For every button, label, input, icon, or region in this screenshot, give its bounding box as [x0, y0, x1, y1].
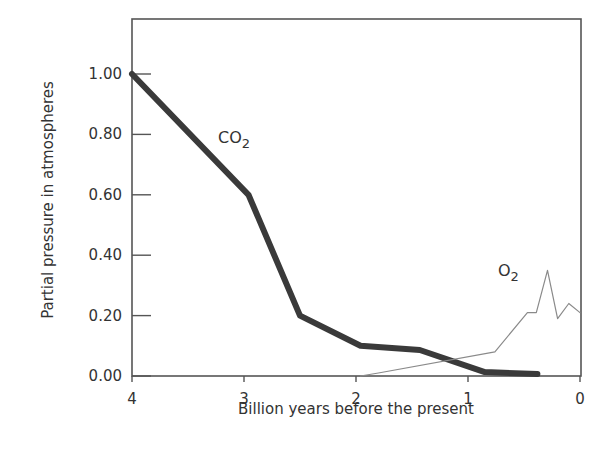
y-axis-ticks: 0.000.200.400.600.801.00 — [89, 65, 151, 385]
x-axis-title: Billion years before the present — [238, 400, 474, 418]
y-axis-title: Partial pressure in atmospheres — [39, 81, 57, 319]
y-tick-label: 1.00 — [89, 65, 122, 83]
y-tick-label: 0.60 — [89, 186, 122, 204]
y-tick-label: 0.40 — [89, 246, 122, 264]
co2-line — [132, 74, 537, 374]
plot-frame — [132, 19, 581, 376]
series-lines — [132, 74, 580, 376]
y-tick-label: 0.20 — [89, 307, 122, 325]
o2-label: O2 — [498, 261, 519, 284]
co2-label: CO2 — [218, 128, 250, 151]
plot-border — [132, 19, 581, 376]
chart: 0.000.200.400.600.801.00 43210 Billion y… — [0, 0, 616, 463]
o2-line — [361, 270, 581, 376]
y-tick-label: 0.80 — [89, 125, 122, 143]
x-tick-label: 4 — [127, 390, 137, 408]
x-tick-label: 0 — [575, 390, 585, 408]
y-tick-label: 0.00 — [89, 367, 122, 385]
